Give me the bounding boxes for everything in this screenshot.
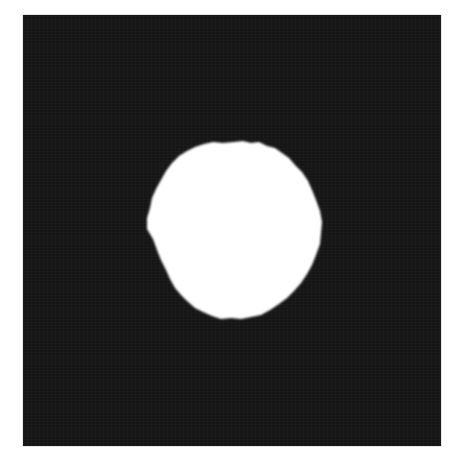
mask-background [23, 15, 441, 446]
white-blob-region [23, 15, 441, 446]
